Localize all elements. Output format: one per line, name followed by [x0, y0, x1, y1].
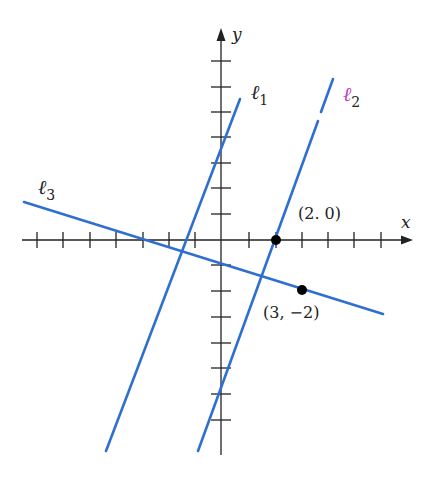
point-3-neg2-label: (3, −2) [263, 303, 319, 322]
y-axis-label: y [231, 24, 242, 44]
line-l2-label: ℓ2 [343, 82, 360, 110]
line-l1 [106, 99, 240, 451]
lines [24, 79, 383, 451]
point-3-neg2 [297, 285, 307, 295]
line-l3-label: ℓ3 [38, 175, 55, 203]
coordinate-diagram: x y ℓ1 ℓ2 ℓ3 (2. 0) (3, −2) [0, 0, 436, 483]
y-axis-arrow-icon [217, 28, 226, 41]
point-2-0 [271, 235, 281, 245]
x-axis-arrow-icon [401, 236, 413, 245]
x-axis-label: x [401, 212, 411, 232]
point-2-0-label: (2. 0) [298, 204, 341, 223]
line-l2-upper [321, 79, 333, 112]
line-l1-label: ℓ1 [251, 80, 268, 108]
